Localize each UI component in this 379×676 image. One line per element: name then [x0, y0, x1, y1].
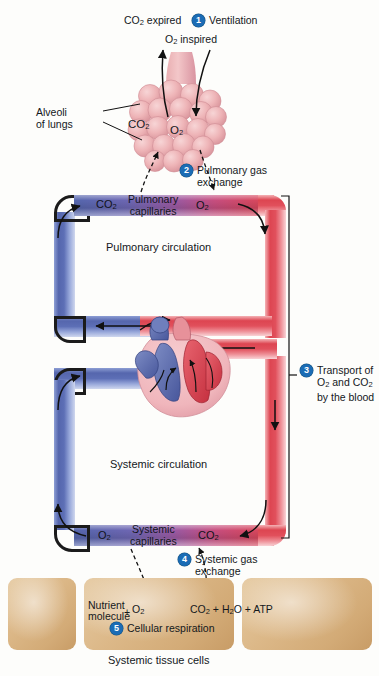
step-2-badge: 2 — [180, 164, 193, 177]
label-o2-inspired: O2 inspired — [165, 33, 217, 48]
alveoli-line-1: Alveoli — [36, 106, 73, 118]
step-1-ventilation: 1 Ventilation — [192, 14, 257, 27]
equation-plus-sign: + — [124, 606, 130, 618]
systemic-bottom-left-corner — [54, 525, 90, 552]
label-co2-expired: CO2 expired — [124, 14, 181, 29]
systemic-circulation-text: Systemic circulation — [110, 458, 207, 470]
label-alveolar-co2: CO2 — [128, 118, 149, 133]
step-5-badge: 5 — [110, 622, 123, 635]
equation-reactant-o2: O2 — [132, 603, 144, 618]
aortic-arch-vessel — [165, 339, 277, 359]
step-4-label: Systemic gas exchange — [195, 553, 257, 577]
alveoli-line-2: of lungs — [36, 118, 73, 130]
step-5-cellular-respiration: 5 Cellular respiration — [110, 622, 215, 635]
step-4-label-line-1: Systemic gas — [195, 553, 257, 565]
systemic-right-vessel — [265, 356, 286, 534]
step-3-transport: 3 Transport of O2 and CO2 by the blood — [300, 364, 374, 403]
label-systemic-circulation: Systemic circulation — [110, 458, 207, 470]
pulmonary-trunk-vessel — [140, 316, 272, 336]
systemic-left-vessel — [54, 380, 75, 530]
systemic-capillaries-line-1: Systemic — [130, 523, 177, 535]
pulmonary-co2-text: CO2 — [96, 198, 117, 210]
step-1-label: Ventilation — [209, 14, 257, 26]
step-3-badge: 3 — [300, 364, 313, 377]
label-alveolar-o2: O2 — [170, 124, 183, 139]
alveoli-cluster — [128, 52, 227, 172]
pulmonary-bottom-left-corner — [54, 316, 86, 343]
alveolar-co2-text: CO2 — [128, 118, 149, 130]
respiratory-circulatory-diagram: CO2 expired O2 inspired 1 Ventilation Al… — [0, 0, 379, 676]
label-systemic-co2: CO2 — [198, 529, 219, 544]
tissue-cell-left — [8, 578, 76, 650]
step-2-pulmonary-gas-exchange: 2 Pulmonary gas exchange — [180, 164, 267, 188]
step-4-badge: 4 — [178, 553, 191, 566]
label-pulmonary-circulation: Pulmonary circulation — [106, 241, 211, 253]
label-systemic-tissue-cells: Systemic tissue cells — [108, 654, 209, 666]
equation-products: CO2 + H2O + ATP — [190, 603, 273, 618]
systemic-bottom-right-corner — [258, 525, 286, 546]
reactant-o2-text: O2 — [132, 603, 144, 615]
plus-sign-text: + — [124, 606, 130, 618]
step-4-systemic-gas-exchange: 4 Systemic gas exchange — [178, 553, 257, 577]
pulmonary-o2-text: O2 — [196, 199, 209, 211]
step-4-label-line-2: exchange — [195, 565, 241, 577]
systemic-capillaries-line-2: capillaries — [130, 535, 177, 547]
pulmonary-circulation-text: Pulmonary circulation — [106, 241, 211, 253]
label-pulmonary-o2: O2 — [196, 199, 209, 214]
products-text: CO2 + H2O + ATP — [190, 603, 273, 615]
step-2-label-line-2: exchange — [197, 176, 243, 188]
label-systemic-o2: O2 — [98, 529, 111, 544]
step-1-badge: 1 — [192, 14, 205, 27]
systemic-co2-text: CO2 — [198, 529, 219, 541]
label-pulmonary-capillaries: Pulmonary capillaries — [128, 193, 178, 217]
co2-expired-text: CO2 expired — [124, 14, 181, 26]
label-alveoli: Alveoli of lungs — [36, 106, 73, 130]
step-3-label-line-3: by the blood — [317, 391, 374, 403]
step-3-label: Transport of O2 and CO2 by the blood — [317, 364, 374, 403]
o2-inspired-text: O2 inspired — [165, 33, 217, 45]
alveolar-o2-text: O2 — [170, 124, 183, 136]
step-3-label-line-1: Transport of — [317, 364, 373, 376]
label-systemic-capillaries: Systemic capillaries — [130, 523, 177, 547]
step-3-label-line-2: O2 and CO2 — [317, 376, 373, 388]
label-pulmonary-co2: CO2 — [96, 198, 117, 213]
pulmonary-capillaries-line-2: capillaries — [128, 205, 178, 217]
systemic-tissue-cells-text: Systemic tissue cells — [108, 654, 209, 666]
step-2-label: Pulmonary gas exchange — [197, 164, 267, 188]
systemic-o2-text: O2 — [98, 529, 111, 541]
step-2-label-line-1: Pulmonary gas — [197, 164, 267, 176]
step-5-label: Cellular respiration — [127, 622, 215, 634]
pulmonary-capillaries-line-1: Pulmonary — [128, 193, 178, 205]
